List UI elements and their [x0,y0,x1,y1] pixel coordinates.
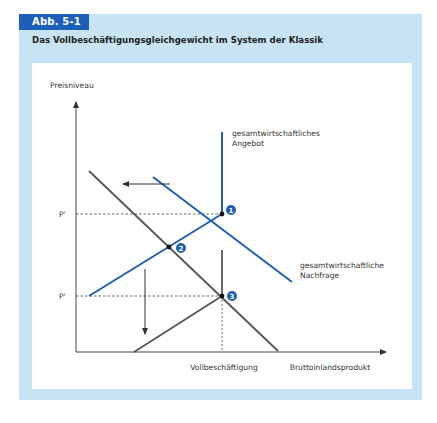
svg-text:2: 2 [179,245,184,253]
intersection-dot-3 [220,294,225,299]
x-axis-label: Bruttoinlandsprodukt [290,363,370,372]
diagram-canvas: 1 2 3 Preisniveau Bruttoinlandsprodukt V… [0,0,437,423]
aggregate-demand-grey [89,171,278,351]
equilibrium-badge-3: 3 [227,291,237,301]
demand-label-line1: gesamtwirtschaftliche [300,261,384,270]
svg-text:1: 1 [229,207,234,215]
y-axis-label: Preisniveau [50,81,94,90]
supply-label-line2: Angebot [232,139,264,148]
aggregate-supply-rising-blue [89,214,222,296]
supply-label-line1: gesamtwirtschaftliches [232,129,320,138]
intersection-dot-2 [167,245,172,250]
price-level-2-label: P' [59,292,66,301]
full-employment-label: Vollbeschäftigung [190,363,258,372]
intersection-dot-1 [220,212,225,217]
aggregate-supply-rising-grey [134,296,222,352]
equilibrium-badge-1: 1 [226,205,236,215]
equilibrium-badge-2: 2 [176,243,186,253]
demand-label-line2: Nachfrage [300,271,340,280]
price-level-1-label: P' [59,210,66,219]
svg-text:3: 3 [230,293,235,301]
